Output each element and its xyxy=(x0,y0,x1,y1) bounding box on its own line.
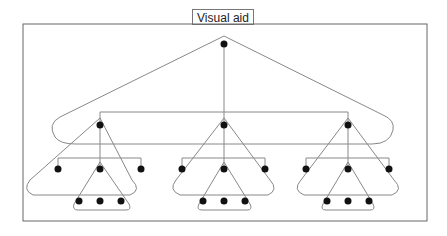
root-node xyxy=(221,41,228,48)
edges xyxy=(58,44,389,169)
enclosures xyxy=(27,36,399,210)
tree-diagram xyxy=(0,0,447,236)
